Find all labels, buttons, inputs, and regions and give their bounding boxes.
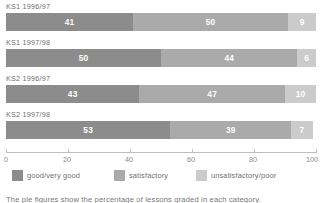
chart-legend: good/very good satisfactory unsatisfacto… bbox=[0, 170, 324, 184]
legend-item-satisfactory: satisfactory bbox=[114, 170, 168, 181]
axis-tick bbox=[192, 149, 193, 153]
legend-label: unsatisfactory/poor bbox=[211, 171, 276, 180]
bar-group: 50 44 6 bbox=[6, 49, 316, 67]
axis-tick bbox=[68, 149, 69, 153]
category-label: KS1 1996/97 bbox=[6, 2, 50, 11]
axis-tick bbox=[316, 149, 317, 153]
bar-segment: 44 bbox=[161, 49, 297, 67]
legend-item-unsatisfactory-poor: unsatisfactory/poor bbox=[196, 170, 276, 181]
legend-swatch-icon bbox=[114, 170, 125, 181]
category-label: KS2 1996/97 bbox=[6, 74, 50, 83]
bar-group: 41 50 9 bbox=[6, 13, 316, 31]
axis-tick-label: 0 bbox=[4, 155, 8, 164]
bar-segment: 39 bbox=[170, 121, 291, 139]
bar-segment: 50 bbox=[133, 13, 288, 31]
legend-label: good/very good bbox=[27, 171, 80, 180]
axis-tick bbox=[254, 149, 255, 153]
axis-tick-label: 80 bbox=[249, 155, 257, 164]
axis-tick-label: 40 bbox=[125, 155, 133, 164]
bar-segment: 50 bbox=[6, 49, 161, 67]
bar-segment: 9 bbox=[288, 13, 316, 31]
bar-segment: 47 bbox=[139, 85, 285, 103]
axis-tick-label: 20 bbox=[63, 155, 71, 164]
bar-group: 53 39 7 bbox=[6, 121, 316, 139]
stacked-bar-chart: KS1 1996/97 41 50 9 KS1 1997/98 50 44 6 … bbox=[0, 0, 324, 203]
bar-segment: 43 bbox=[6, 85, 139, 103]
axis-tick-label: 60 bbox=[187, 155, 195, 164]
bar-segment: 7 bbox=[291, 121, 313, 139]
category-label: KS1 1997/98 bbox=[6, 38, 50, 47]
bar-segment: 10 bbox=[285, 85, 316, 103]
bar-segment: 53 bbox=[6, 121, 170, 139]
legend-swatch-icon bbox=[196, 170, 207, 181]
axis-tick bbox=[6, 149, 7, 153]
bar-segment: 6 bbox=[297, 49, 316, 67]
category-label: KS2 1997/98 bbox=[6, 110, 50, 119]
legend-swatch-icon bbox=[12, 170, 23, 181]
legend-label: satisfactory bbox=[129, 171, 168, 180]
x-axis-line bbox=[6, 152, 316, 153]
legend-item-good-very-good: good/very good bbox=[12, 170, 80, 181]
axis-tick-label: 100 bbox=[306, 155, 318, 164]
bar-group: 43 47 10 bbox=[6, 85, 316, 103]
axis-tick bbox=[130, 149, 131, 153]
chart-footnote: The pie figures show the percentage of l… bbox=[6, 195, 261, 203]
bar-segment: 41 bbox=[6, 13, 133, 31]
